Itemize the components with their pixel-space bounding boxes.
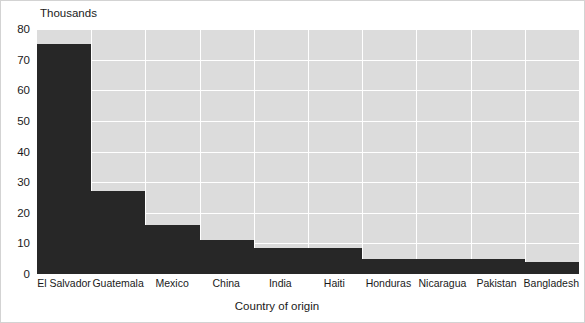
bar[interactable]: [416, 259, 470, 274]
x-axis-tick-label: India: [253, 277, 307, 290]
bar[interactable]: [362, 259, 416, 274]
x-axis-tick-label: Pakistan: [470, 277, 524, 290]
bar[interactable]: [200, 240, 254, 274]
y-axis-tick-label: 80: [17, 24, 30, 35]
bar-cell: [254, 29, 308, 274]
x-axis-tick-label: Haiti: [307, 277, 361, 290]
y-axis-tick-label: 30: [17, 177, 30, 188]
x-axis-tick-label: Mexico: [145, 277, 199, 290]
x-axis-title: Country of origin: [37, 300, 517, 313]
bar-series: [37, 29, 579, 274]
bar-cell: [37, 29, 91, 274]
x-axis-tick-label: Nicaragua: [415, 277, 469, 290]
y-axis-tick-labels: 01020304050607080: [1, 1, 35, 323]
bar[interactable]: [254, 248, 308, 274]
x-axis-tick-label: El Salvador: [37, 277, 91, 290]
y-axis-unit-label: Thousands: [40, 7, 97, 20]
bar-cell: [362, 29, 416, 274]
x-axis-tick-label: China: [199, 277, 253, 290]
y-axis-tick-label: 60: [17, 85, 30, 96]
bar[interactable]: [308, 248, 362, 274]
x-axis-tick-label: Guatemala: [91, 277, 145, 290]
plot-area: [37, 29, 579, 274]
bar-chart-figure: Thousands 01020304050607080 El SalvadorG…: [0, 0, 585, 323]
bar-cell: [525, 29, 579, 274]
bar[interactable]: [471, 259, 525, 274]
x-axis-tick-label: Bangladesh: [524, 277, 579, 290]
bar-cell: [308, 29, 362, 274]
bar[interactable]: [145, 225, 199, 274]
y-axis-tick-label: 40: [17, 146, 30, 157]
x-axis-tick-label: Honduras: [361, 277, 415, 290]
bar[interactable]: [37, 44, 91, 274]
y-axis-tick-label: 0: [24, 269, 30, 280]
bar[interactable]: [91, 191, 145, 274]
bar-cell: [200, 29, 254, 274]
y-axis-tick-label: 70: [17, 54, 30, 65]
bar-cell: [91, 29, 145, 274]
bar-cell: [416, 29, 470, 274]
bar-cell: [145, 29, 199, 274]
bar[interactable]: [525, 262, 579, 274]
x-axis-tick-labels: El SalvadorGuatemalaMexicoChinaIndiaHait…: [37, 277, 579, 290]
bar-cell: [471, 29, 525, 274]
y-axis-tick-label: 50: [17, 115, 30, 126]
y-axis-tick-label: 20: [17, 207, 30, 218]
y-axis-tick-label: 10: [17, 238, 30, 249]
